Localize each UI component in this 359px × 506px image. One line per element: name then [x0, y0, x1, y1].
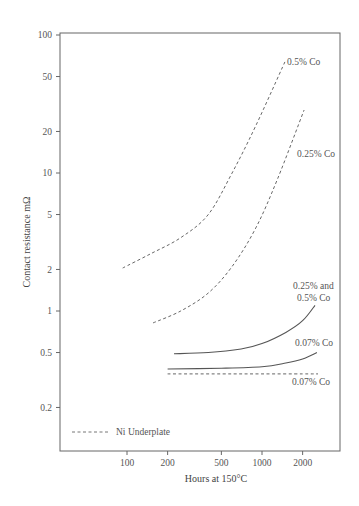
annotation-007-co-solid: 0.07% Co — [295, 338, 333, 348]
annotation-025-co: 0.25% Co — [297, 149, 335, 159]
y-tick-label: 2 — [47, 265, 52, 275]
y-tick-label: 0.5 — [40, 348, 52, 358]
annotation-05-co: 0.5% Co — [287, 57, 321, 67]
x-tick-label: 100 — [120, 458, 135, 468]
x-axis: 10020050010002000 — [120, 451, 313, 468]
y-tick-label: 5 — [47, 210, 52, 220]
x-tick-label: 2000 — [293, 458, 312, 468]
y-tick-label: 10 — [43, 168, 53, 178]
x-tick-label: 200 — [161, 458, 176, 468]
y-axis: 1005020105210.50.2 — [38, 30, 60, 412]
x-axis-title: Hours at 150°C — [185, 473, 248, 484]
x-tick-label: 500 — [214, 458, 229, 468]
y-axis-title: Contact resistance mΩ — [21, 197, 32, 288]
x-tick-label: 1000 — [253, 458, 272, 468]
chart: 1005020105210.50.2 10020050010002000 0.5… — [0, 0, 359, 506]
series-group — [123, 62, 318, 374]
y-tick-label: 20 — [43, 127, 53, 137]
y-tick-label: 1 — [47, 306, 52, 316]
annotation-025-and-05-co-line1: 0.25% and — [293, 281, 334, 291]
y-tick-label: 0.2 — [40, 403, 52, 413]
annotation-007-co-dashed: 0.07% Co — [292, 377, 330, 387]
series-line-0-25-and-0-5-co-solid — [174, 305, 315, 354]
annotation-025-and-05-co-line2: 0.5% Co — [297, 293, 331, 303]
series-line-0-5-co-dashed — [123, 62, 285, 268]
y-tick-label: 100 — [38, 30, 53, 40]
legend-label: Ni Underplate — [116, 427, 170, 437]
series-line-0-25-co-dashed — [153, 110, 304, 323]
plot-frame — [60, 33, 340, 451]
y-tick-label: 50 — [43, 72, 53, 82]
series-line-0-07-co-solid — [168, 353, 317, 370]
